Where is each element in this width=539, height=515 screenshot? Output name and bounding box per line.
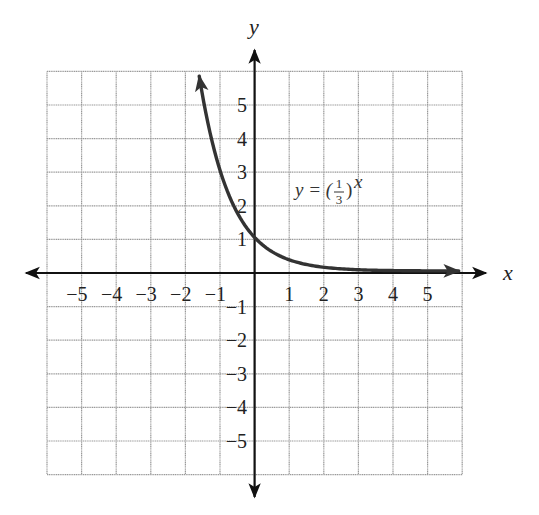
equation-rparen: ) (346, 179, 352, 201)
x-axis-label: x (502, 260, 513, 285)
x-tick-label: −5 (66, 283, 87, 305)
y-tick-label: −4 (226, 396, 247, 418)
x-tick-label: 2 (319, 283, 329, 305)
x-tick-label: −2 (170, 283, 191, 305)
y-tick-label: 4 (237, 128, 247, 150)
equation-lhs: y = ( (293, 179, 334, 201)
equation-numerator: 1 (336, 176, 343, 191)
y-tick-label: −5 (226, 430, 247, 452)
equation-exponent: x (353, 171, 363, 192)
x-tick-label: −4 (101, 283, 122, 305)
exponential-graph: x y −5−4−3−2−112345 54321−1−2−3−4−5 y = … (0, 0, 539, 515)
x-tick-label: 5 (423, 283, 433, 305)
equation-label: y = ( 1 3 ) x (293, 171, 363, 207)
y-tick-label: 3 (237, 161, 247, 183)
y-tick-label: −3 (226, 363, 247, 385)
y-tick-label: −2 (226, 329, 247, 351)
x-tick-label: −3 (136, 283, 157, 305)
x-tick-label: 1 (284, 283, 294, 305)
x-tick-label: 3 (353, 283, 363, 305)
equation-denominator: 3 (336, 192, 343, 207)
x-tick-label: −1 (205, 283, 226, 305)
x-tick-labels: −5−4−3−2−112345 (66, 283, 432, 305)
y-tick-label: 1 (237, 228, 247, 250)
y-tick-label: −1 (226, 296, 247, 318)
y-axis-label: y (247, 14, 259, 39)
y-tick-label: 5 (237, 94, 247, 116)
x-tick-label: 4 (388, 283, 398, 305)
svg-text:y = (: y = ( (293, 179, 334, 201)
